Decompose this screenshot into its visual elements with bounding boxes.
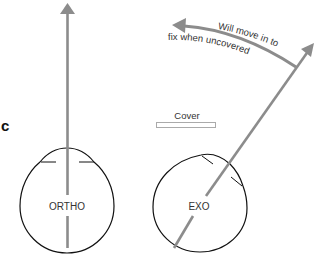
cover-bar: [157, 123, 216, 128]
curved-left-arrow-icon: [172, 18, 186, 33]
exo-label: EXO: [188, 201, 209, 212]
up-arrow-icon: [60, 3, 75, 14]
ortho-label: ORTHO: [49, 201, 85, 212]
diagonal-arrow-icon: [301, 43, 314, 57]
exo-lid-upper: [202, 156, 213, 164]
cover-label: Cover: [174, 110, 199, 121]
exo-eye: EXO: [153, 43, 314, 252]
cover: Cover: [157, 110, 216, 128]
strabismus-diagram: ORTHO Cover EXO Will move in to fix when…: [0, 0, 318, 255]
ortho-eye: ORTHO: [20, 3, 114, 253]
exo-gaze-line-upper: [206, 50, 309, 196]
exo-gaze-line-lower: [174, 216, 193, 248]
move-annotation: Will move in to fix when uncovered: [168, 18, 296, 67]
